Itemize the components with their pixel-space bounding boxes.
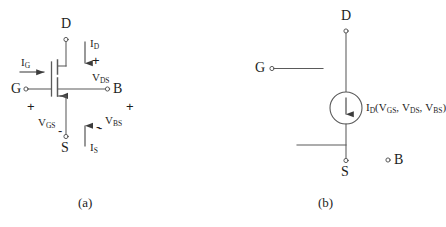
caption-b: (b) [318,196,333,209]
vds-label-a: VDS [92,72,110,83]
drain-current-label-a: ID [90,38,99,49]
source-current-sub-a: S [94,146,98,155]
source-label-b: S [341,165,349,179]
func-close-paren-b: ) [443,101,446,113]
gate-terminal-node-a [24,87,28,91]
func-arg1-symbol-b: V [379,101,387,113]
func-arg2-symbol-b: V [402,101,410,113]
bulk-terminal-node-a [105,87,109,91]
drain-terminal-node-a [64,37,68,41]
bulk-label-a: B [113,82,122,96]
source-current-label-a: IS [90,142,98,153]
func-comma2-b: , [420,101,423,113]
source-label-a: S [61,141,69,155]
drain-terminal-node-b [344,29,348,33]
vds-sub-a: DS [100,76,110,85]
drain-label-b: D [341,9,351,23]
bulk-label-b: B [394,153,403,167]
func-comma1-b: , [396,101,399,113]
caption-a: (a) [78,196,92,209]
vgs-plus-sign-a: + [27,100,35,113]
gate-current-label-a: IG [21,57,30,68]
gate-terminal-node-b [270,66,274,70]
vds-symbol-a: V [92,71,100,83]
gate-label-b: G [255,61,265,75]
source-terminal-node-a [64,134,68,138]
func-arg3-sub-b: BS [433,106,442,115]
vbs-minus-sign-a: - [98,121,102,134]
vds-plus-sign-a: + [92,54,100,67]
vgs-symbol-a: V [38,116,46,128]
drain-current-function-label-b: ID(VGS,VDS,VBS) [366,102,446,113]
source-terminal-node-b [344,158,348,162]
vbs-sub-a: BS [113,119,122,128]
vbs-symbol-a: V [105,114,113,126]
bulk-terminal-node-b [386,158,390,162]
vbs-plus-sign-a: + [126,100,134,113]
func-sub-b: D [370,106,375,115]
drain-current-sub-a: D [94,42,99,51]
vgs-sub-a: GS [46,121,56,130]
gate-label-a: G [11,82,21,96]
drain-label-a: D [61,17,71,31]
func-arg1-sub-b: GS [387,106,397,115]
vbs-label-a: VBS [105,115,122,126]
gate-current-sub-a: G [25,61,30,70]
vgs-label-a: VGS [38,117,56,128]
vgs-minus-sign-a: - [58,124,62,137]
func-arg2-sub-b: DS [410,106,420,115]
